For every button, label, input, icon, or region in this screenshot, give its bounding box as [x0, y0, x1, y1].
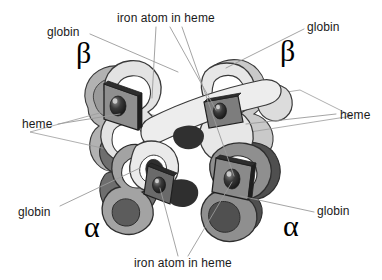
label-globin-bottom-right: globin — [317, 205, 350, 217]
iron-atom-sphere — [214, 103, 227, 119]
label-globin-top-right: globin — [307, 21, 340, 33]
label-iron-atom-in-heme-bottom: iron atom in heme — [134, 257, 232, 269]
label-subunit-alpha-left: α — [84, 212, 100, 242]
hemoglobin-diagram: globin globin globin globin iron atom in… — [0, 0, 382, 280]
heme-group-lower-right — [212, 155, 256, 200]
iron-atom-sphere — [110, 96, 126, 116]
iron-atom-sphere — [224, 169, 240, 189]
label-subunit-beta-right: β — [280, 36, 295, 66]
hemoglobin-structure-illustration — [0, 0, 382, 280]
label-globin-top-left: globin — [47, 26, 80, 38]
label-heme-right: heme — [340, 109, 370, 121]
label-iron-atom-in-heme-top: iron atom in heme — [117, 12, 215, 24]
label-heme-left: heme — [22, 118, 52, 130]
label-subunit-beta-left: β — [76, 38, 91, 68]
label-globin-bottom-left: globin — [18, 206, 51, 218]
label-subunit-alpha-right: α — [283, 211, 299, 241]
iron-atom-sphere — [153, 177, 166, 193]
